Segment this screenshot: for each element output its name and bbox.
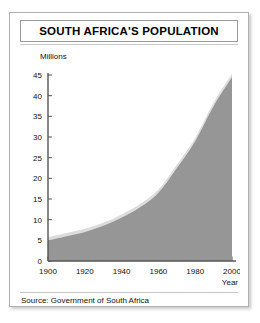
x-tick-labels: 190019201940196019802000 bbox=[39, 267, 240, 276]
svg-text:30: 30 bbox=[33, 133, 42, 142]
chart-card: SOUTH AFRICA'S POPULATION Millions 05101… bbox=[9, 12, 249, 307]
x-axis-label: Year bbox=[222, 278, 239, 287]
svg-text:1920: 1920 bbox=[76, 267, 94, 276]
svg-text:35: 35 bbox=[33, 112, 42, 121]
svg-text:2000: 2000 bbox=[223, 267, 240, 276]
svg-text:1900: 1900 bbox=[39, 267, 57, 276]
y-axis-unit-label: Millions bbox=[40, 52, 67, 61]
source-divider bbox=[20, 292, 238, 293]
svg-text:25: 25 bbox=[33, 154, 42, 163]
chart-svg: 051015202530354045 190019201940196019802… bbox=[20, 63, 240, 291]
title-divider bbox=[20, 44, 238, 45]
svg-text:15: 15 bbox=[33, 195, 42, 204]
svg-text:0: 0 bbox=[38, 257, 43, 266]
chart-title-box: SOUTH AFRICA'S POPULATION bbox=[20, 20, 238, 42]
svg-text:10: 10 bbox=[33, 216, 42, 225]
source-note: Source: Government of South Africa bbox=[21, 296, 149, 305]
y-tick-labels: 051015202530354045 bbox=[33, 71, 42, 266]
page-title: SOUTH AFRICA'S POPULATION bbox=[39, 25, 219, 37]
svg-text:5: 5 bbox=[38, 236, 43, 245]
svg-text:20: 20 bbox=[33, 174, 42, 183]
svg-text:40: 40 bbox=[33, 92, 42, 101]
svg-text:1980: 1980 bbox=[186, 267, 204, 276]
population-area-chart: 051015202530354045 190019201940196019802… bbox=[20, 63, 240, 291]
svg-text:1940: 1940 bbox=[113, 267, 131, 276]
svg-text:45: 45 bbox=[33, 71, 42, 80]
svg-text:1960: 1960 bbox=[150, 267, 168, 276]
